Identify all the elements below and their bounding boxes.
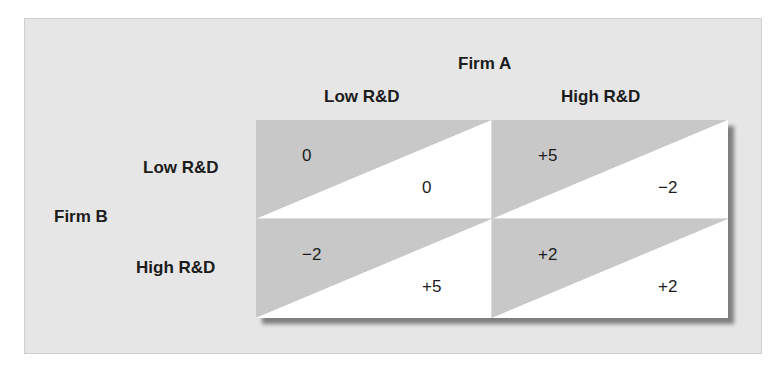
diagonal-split-shape: [256, 120, 492, 219]
payoff-matrix: 0 0 +5 −2 −2 +5 +2 +2: [256, 120, 728, 318]
firm-b-payoff: +2: [538, 245, 557, 265]
firm-b-payoff: +5: [538, 146, 557, 166]
firm-b-payoff: −2: [302, 245, 321, 265]
column-strategy-high-rd: High R&D: [561, 87, 640, 107]
diagonal-split-shape: [492, 120, 728, 219]
firm-a-payoff: +5: [422, 277, 441, 297]
firm-a-payoff: +2: [658, 277, 677, 297]
column-player-label: Firm A: [458, 54, 511, 74]
firm-a-payoff: −2: [658, 178, 677, 198]
firm-b-payoff: 0: [302, 146, 311, 166]
payoff-cell-low-high: +5 −2: [492, 120, 728, 219]
row-player-label: Firm B: [54, 207, 108, 227]
row-strategy-low-rd: Low R&D: [143, 158, 219, 178]
column-strategy-low-rd: Low R&D: [324, 87, 400, 107]
firm-a-payoff: 0: [422, 178, 431, 198]
row-strategy-high-rd: High R&D: [136, 258, 215, 278]
payoff-cell-low-low: 0 0: [256, 120, 492, 219]
payoff-cell-high-high: +2 +2: [492, 219, 728, 318]
payoff-cell-high-low: −2 +5: [256, 219, 492, 318]
diagonal-split-shape: [256, 219, 492, 318]
diagonal-split-shape: [492, 219, 728, 318]
